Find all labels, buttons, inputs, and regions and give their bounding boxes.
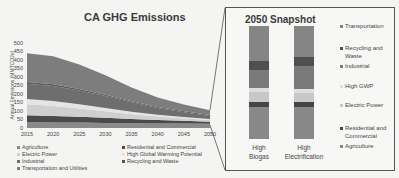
legend-swatch — [17, 160, 20, 163]
legend-label: Recycling and Waste — [345, 44, 394, 60]
legend-swatch — [122, 153, 125, 156]
snapshot-bar — [249, 26, 269, 139]
snapshot-legend-item: Industrial — [340, 62, 394, 70]
legend-label: Recycling and Waste — [127, 158, 178, 164]
legend-swatch — [122, 160, 125, 163]
legend-label: Agriculture — [22, 144, 48, 150]
legend-item: Industrial — [17, 158, 44, 164]
legend-label: Industrial — [345, 62, 369, 70]
legend-item: Recycling and Waste — [122, 158, 178, 164]
snapshot-legend-item: Residential and Commercial — [340, 124, 394, 140]
legend-item: Electric Power — [17, 151, 57, 157]
legend-swatch — [340, 104, 343, 107]
legend-label: Electric Power — [22, 151, 57, 157]
legend-swatch — [122, 146, 125, 149]
legend-label: Transportation and Utilities — [22, 165, 87, 171]
legend-label: Agriculture — [345, 142, 374, 150]
legend-swatch — [340, 127, 343, 130]
bar-segment — [249, 107, 269, 139]
legend-swatch — [340, 145, 343, 148]
snapshot-legend-item: Recycling and Waste — [340, 44, 394, 60]
bar-segment — [249, 70, 269, 88]
bar-segment — [249, 61, 269, 70]
snapshot-legend-item: Electric Power — [340, 101, 394, 109]
legend-swatch — [17, 167, 20, 170]
legend-label: Transportation — [345, 22, 383, 30]
legend-label: Residential and Commercial — [127, 144, 196, 150]
legend-swatch — [340, 25, 343, 28]
bar-segment — [249, 26, 269, 61]
legend-item: Transportation and Utilities — [17, 165, 87, 171]
legend-item: Residential and Commercial — [122, 144, 196, 150]
legend-item: Agriculture — [17, 144, 48, 150]
snapshot-legend-item: Transportation — [340, 22, 394, 30]
legend-label: Electric Power — [345, 101, 383, 109]
snapshot-bar — [294, 26, 314, 139]
legend-swatch — [17, 153, 20, 156]
legend-item: High Global Warming Potential — [122, 151, 202, 157]
snapshot-panel: 2050 Snapshot HighBiogasHighElectrificat… — [225, 7, 395, 171]
legend-label: High Global Warming Potential — [127, 151, 202, 157]
legend-label: High GWP — [345, 82, 373, 90]
bar-segment — [294, 66, 314, 88]
bar-segment — [249, 92, 269, 102]
legend-swatch — [340, 85, 343, 88]
legend-swatch — [340, 65, 343, 68]
legend-label: Industrial — [22, 158, 44, 164]
bar-segment — [294, 107, 314, 139]
bar-segment — [294, 93, 314, 102]
snapshot-title: 2050 Snapshot — [245, 14, 316, 25]
legend-label: Residential and Commercial — [345, 124, 394, 140]
snapshot-legend-item: High GWP — [340, 82, 394, 90]
legend-swatch — [340, 47, 343, 50]
bar-segment — [294, 57, 314, 66]
legend-swatch — [17, 146, 20, 149]
bar-label: HighElectrification — [274, 143, 334, 161]
bar-segment — [294, 26, 314, 57]
snapshot-legend-item: Agriculture — [340, 142, 394, 150]
